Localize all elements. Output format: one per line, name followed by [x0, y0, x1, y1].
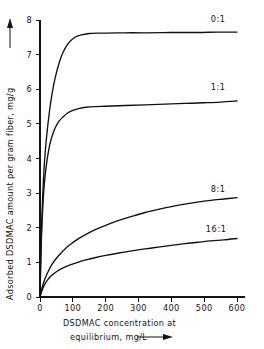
x-tick-label-500: 500 [196, 303, 213, 313]
y-tick-label-5: 5 [27, 119, 32, 129]
y-tick-label-8: 8 [27, 15, 32, 25]
y-axis-title: Adsorbed DSDMAC amount per gram fiber, m… [5, 88, 15, 300]
x-axis-title-line2: equilibrium, mg/L [70, 332, 147, 342]
x-axis-title-group: DSDMAC concentration at equilibrium, mg/… [63, 318, 176, 342]
y-tick-label-2: 2 [27, 223, 32, 233]
curve-label-0-1: 0:1 [211, 14, 226, 24]
y-tick-label-6: 6 [27, 84, 32, 94]
adsorption-isotherm-chart: Adsorbed DSDMAC amount per gram fiber, m… [0, 0, 264, 349]
y-tick-label-3: 3 [27, 188, 32, 198]
x-axis-ticks: 0 100 200 300 400 500 600 [37, 297, 245, 313]
x-tick-label-400: 400 [163, 303, 180, 313]
y-tick-label-4: 4 [27, 154, 32, 164]
curve-8-1 [40, 198, 237, 297]
figure-container: Adsorbed DSDMAC amount per gram fiber, m… [0, 0, 264, 349]
axes-group [40, 20, 245, 297]
curve-0-1 [40, 32, 237, 297]
y-axis-title-group: Adsorbed DSDMAC amount per gram fiber, m… [5, 18, 15, 300]
y-axis-ticks: 0 1 2 3 4 5 6 7 8 [27, 15, 40, 302]
y-tick-label-0: 0 [27, 292, 32, 302]
x-tick-label-100: 100 [64, 303, 81, 313]
x-tick-label-300: 300 [130, 303, 147, 313]
x-tick-label-600: 600 [229, 303, 246, 313]
curve-label-1-1: 1:1 [211, 82, 226, 92]
x-axis-title-arrow-head [163, 334, 173, 340]
curve-label-8-1: 8:1 [211, 184, 226, 194]
series-curves [40, 32, 237, 297]
x-axis-title-line1: DSDMAC concentration at [63, 318, 176, 328]
x-tick-label-0: 0 [37, 303, 43, 313]
y-axis-title-arrow-head [7, 18, 13, 28]
y-tick-label-7: 7 [27, 50, 32, 60]
curve-1-1 [40, 101, 237, 297]
y-tick-label-1: 1 [27, 257, 32, 267]
curve-16-1 [40, 238, 237, 297]
x-tick-label-200: 200 [97, 303, 114, 313]
curve-label-16-1: 16:1 [206, 224, 227, 234]
